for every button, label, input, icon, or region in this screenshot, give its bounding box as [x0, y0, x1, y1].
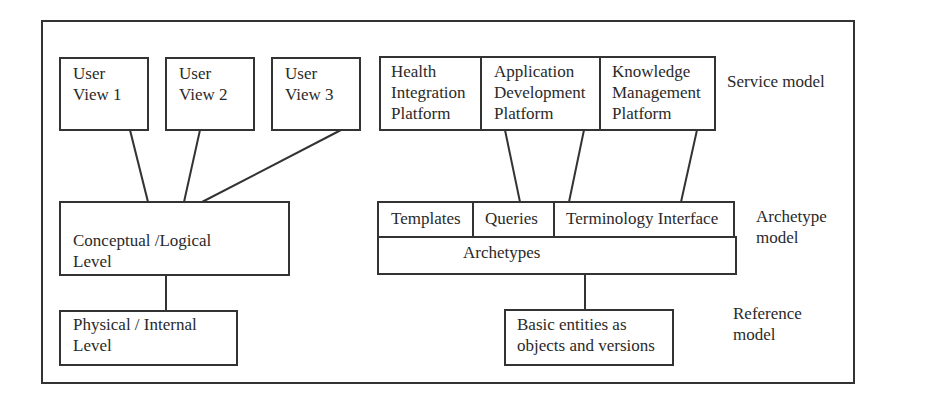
user-view-3-box: User View 3: [271, 57, 361, 131]
archetype-model-label: Archetype model: [756, 206, 827, 248]
platform-line: Management: [612, 82, 714, 103]
archetype-model-line1: Archetype: [756, 206, 827, 227]
basic-entities-line1: Basic entities as: [517, 314, 672, 335]
platform-line: Platform: [494, 103, 599, 124]
conceptual-line1: Conceptual /Logical: [73, 230, 288, 251]
conceptual-line2: Level: [73, 251, 288, 272]
user-view-2-box: User View 2: [165, 57, 255, 131]
platform-line: Platform: [391, 103, 480, 124]
basic-entities-line2: objects and versions: [517, 335, 672, 356]
knowledge-management-platform-box: Knowledge Management Platform: [599, 56, 716, 131]
archetypes-label: Archetypes: [463, 242, 735, 263]
user-view-1-box: User View 1: [59, 57, 149, 131]
user-view-2-line1: User: [179, 63, 253, 84]
platform-line: Platform: [612, 103, 714, 124]
queries-label: Queries: [485, 208, 553, 229]
platform-line: Knowledge: [612, 61, 714, 82]
archetype-model-line2: model: [756, 227, 827, 248]
platform-line: Application: [494, 61, 599, 82]
reference-model-label: Reference model: [733, 303, 802, 345]
terminology-interface-box: Terminology Interface: [553, 201, 735, 238]
platform-line: Development: [494, 82, 599, 103]
application-development-platform-box: Application Development Platform: [480, 56, 601, 131]
reference-model-line1: Reference: [733, 303, 802, 324]
user-view-3-line2: View 3: [285, 84, 359, 105]
reference-model-line2: model: [733, 324, 802, 345]
basic-entities-box: Basic entities as objects and versions: [504, 309, 674, 366]
service-model-label: Service model: [727, 71, 825, 92]
user-view-1-line1: User: [73, 63, 147, 84]
health-integration-platform-box: Health Integration Platform: [379, 56, 482, 131]
terminology-label: Terminology Interface: [566, 208, 733, 229]
user-view-1-line2: View 1: [73, 84, 147, 105]
physical-line1: Physical / Internal: [73, 314, 236, 335]
conceptual-level-box: Conceptual /Logical Level: [59, 201, 290, 276]
platform-line: Health: [391, 61, 480, 82]
physical-line2: Level: [73, 335, 236, 356]
platform-line: Integration: [391, 82, 480, 103]
queries-box: Queries: [472, 201, 555, 238]
user-view-2-line2: View 2: [179, 84, 253, 105]
archetypes-box: Archetypes: [377, 236, 737, 275]
templates-box: Templates: [377, 201, 474, 238]
user-view-3-line1: User: [285, 63, 359, 84]
physical-level-box: Physical / Internal Level: [59, 310, 238, 366]
templates-label: Templates: [391, 208, 472, 229]
